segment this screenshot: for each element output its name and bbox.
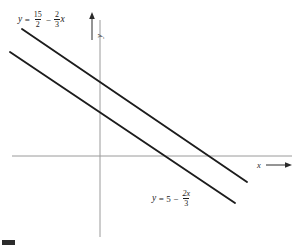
line-lower (10, 52, 235, 203)
x-axis-arrow-icon (266, 162, 292, 167)
equation-lower-minus: − (173, 195, 178, 204)
equation-upper-variable: x (60, 15, 64, 25)
equation-upper-lhs: y (18, 15, 22, 25)
equation-upper-minus: − (46, 16, 51, 25)
fraction-denominator: 3 (54, 19, 60, 29)
equation-upper-equals: = (25, 16, 30, 25)
fraction-denominator: 2 (35, 19, 41, 29)
figure-canvas: y = 15 2 − 2 3 x y = 5 − 2x 3 x y (0, 0, 300, 249)
x-axis-label: x (257, 160, 261, 170)
fraction-numerator: 2 (54, 11, 60, 20)
coordinate-plot (0, 0, 300, 249)
equation-label-lower: y = 5 − 2x 3 (152, 190, 191, 208)
fraction-numerator: 2x (181, 190, 191, 199)
line-upper (22, 29, 247, 182)
fraction-numerator: 15 (33, 11, 43, 20)
y-axis-label: y (94, 34, 104, 38)
fraction-two-x-thirds: 2x 3 (181, 190, 191, 208)
equation-lower-constant: 5 (166, 195, 171, 204)
equation-label-upper: y = 15 2 − 2 3 x (18, 11, 65, 29)
fraction-fifteen-halves: 15 2 (33, 11, 43, 29)
equation-lower-equals: = (159, 195, 164, 204)
fraction-denominator: 3 (183, 198, 189, 208)
registration-mark (2, 240, 15, 245)
fraction-two-thirds: 2 3 (54, 11, 60, 29)
equation-lower-lhs: y (152, 194, 156, 204)
